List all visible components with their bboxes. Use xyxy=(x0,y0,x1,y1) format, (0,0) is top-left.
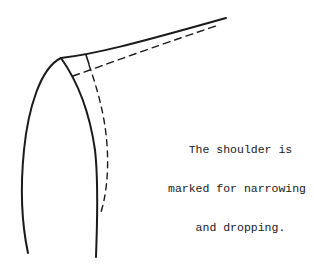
dropped-shoulder-line xyxy=(73,26,216,76)
caption-line-1: The shoulder is xyxy=(168,143,315,156)
armhole-seam xyxy=(61,58,97,257)
caption-line-2: marked for narrowing xyxy=(168,182,315,195)
left-outline xyxy=(22,58,61,253)
shoulder-tick xyxy=(86,55,89,64)
figure-caption: The shoulder is marked for narrowing and… xyxy=(168,117,315,247)
shoulder-line xyxy=(61,18,226,58)
narrowed-armhole-line xyxy=(89,65,108,215)
caption-line-3: and dropping. xyxy=(168,221,315,234)
